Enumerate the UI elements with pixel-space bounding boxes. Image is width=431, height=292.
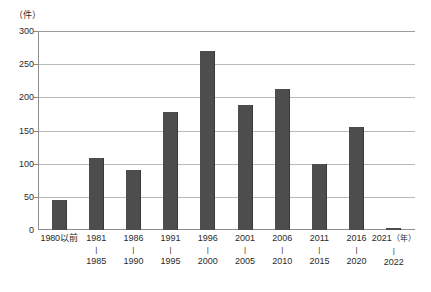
x-axis-label-start: 2021（年） [367,232,421,245]
bar [386,228,401,230]
y-axis-tick-label: 100 [0,159,34,168]
x-axis-label-group: 2021（年）|2022 [367,232,421,268]
bar [89,158,104,230]
y-axis-tick-label: 50 [0,192,34,201]
y-axis-tick-label: 300 [0,27,34,36]
y-axis-tick-label: 250 [0,60,34,69]
bar [200,51,215,230]
bar-chart: （件） 300250200150100500 1980以前1981|198519… [0,0,431,292]
x-axis-label-range-dash: | [367,245,421,256]
bar [238,105,253,230]
y-axis-unit-label: （件） [14,10,41,21]
x-axis-unit-label: （年） [392,234,416,243]
y-axis-tick-label: 150 [0,126,34,135]
x-axis-label-end: 2022 [367,256,421,268]
bars [38,31,415,230]
y-axis-tick-labels: 300250200150100500 [0,31,34,230]
x-axis-tick-labels: 1980以前1981|19851986|19901991|19951996|20… [38,232,431,290]
bar [163,112,178,230]
bar [312,164,327,230]
bar [52,200,67,230]
y-axis-tick-label: 0 [0,226,34,235]
bar [126,170,141,230]
y-axis-tick-label: 200 [0,93,34,102]
plot-area [38,31,415,230]
bar [349,127,364,230]
bar [275,89,290,230]
